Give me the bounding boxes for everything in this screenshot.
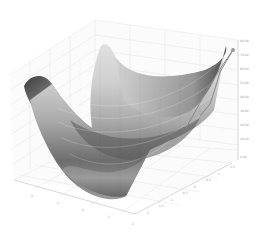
- surface-chart: 80.00 70.00 60.00 50.00 40.00 30.00 20.0…: [0, 0, 256, 236]
- y-tick: 0.5: [206, 178, 211, 182]
- z-tick: 30.00: [240, 109, 249, 113]
- y-tick: 1: [218, 172, 220, 176]
- z-tick: 20.00: [240, 123, 249, 127]
- x-tick: -2: [30, 194, 33, 198]
- y-tick: -0.5: [182, 191, 188, 195]
- trajectory-end-marker: [231, 48, 235, 52]
- z-tick: 10.00: [240, 137, 249, 141]
- z-tick: 60.00: [240, 67, 249, 71]
- y-tick: -1: [170, 198, 173, 202]
- z-tick: 70.00: [240, 53, 249, 57]
- x-tick: 0: [82, 208, 84, 212]
- y-tick: 1.5: [230, 165, 235, 169]
- z-tick: 40.00: [240, 95, 249, 99]
- y-tick: 0: [194, 185, 196, 189]
- z-tick: 0.00: [240, 155, 247, 159]
- x-tick: 2: [132, 222, 134, 226]
- y-tick: -1.5: [158, 204, 164, 208]
- chart-canvas: 80.00 70.00 60.00 50.00 40.00 30.00 20.0…: [0, 0, 256, 236]
- z-axis: 80.00 70.00 60.00 50.00 40.00 30.00 20.0…: [238, 39, 249, 160]
- x-tick: -1: [56, 201, 59, 205]
- z-tick: 80.00: [240, 39, 249, 43]
- z-tick: 50.00: [240, 81, 249, 85]
- y-tick: -2: [146, 211, 149, 215]
- x-tick: 1: [108, 215, 110, 219]
